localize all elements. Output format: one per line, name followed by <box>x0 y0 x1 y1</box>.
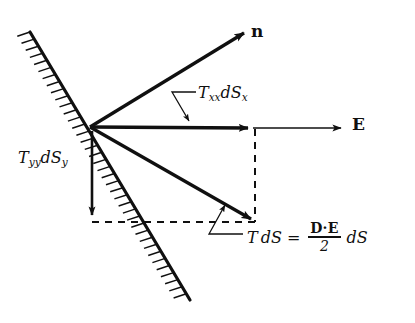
label-field-vector: E <box>352 116 365 133</box>
stress-yy-area-subscript: y <box>62 156 68 168</box>
stress-yy-symbol: T <box>18 148 29 167</box>
equation-lhs-T: T <box>247 230 258 246</box>
vector-group <box>90 33 341 219</box>
stress-xx-area-subscript: x <box>242 91 248 103</box>
stress-yy-d: d <box>41 148 51 167</box>
equation-denominator: 2 <box>320 238 329 253</box>
stress-xx-d: d <box>221 83 231 102</box>
stress-xx-S: S <box>231 83 242 102</box>
label-stress-yy: TyydSy <box>18 150 68 166</box>
equation-trailing-dS: dS <box>347 230 368 246</box>
leader-lines <box>172 92 243 234</box>
label-equation: TdS = D·E 2 dS <box>247 222 368 254</box>
figure-container: n E TxxdSx TyydSy TdS = D·E 2 dS <box>0 0 415 323</box>
stress-xx-symbol: T <box>198 83 209 102</box>
label-normal-vector: n <box>251 23 263 40</box>
stress-xx-subscript: xx <box>209 91 221 103</box>
equation-numerator: D·E <box>308 221 340 236</box>
stress-yy-subscript: yy <box>29 156 41 168</box>
equation-lhs-dS: dS <box>261 230 282 246</box>
stress-yy-S: S <box>51 148 62 167</box>
label-stress-xx: TxxdSx <box>198 85 248 101</box>
leader-Txx <box>172 92 196 121</box>
equation-equals: = <box>285 230 302 246</box>
vector-n <box>90 33 244 127</box>
equation-fraction: D·E 2 <box>308 221 340 253</box>
leader-TdS <box>209 205 243 234</box>
vector-Txx-dSx <box>90 127 248 128</box>
